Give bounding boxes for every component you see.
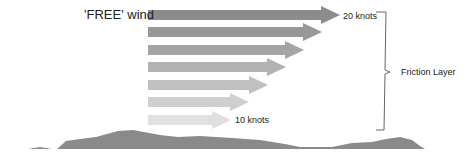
- friction-layer-bracket: [376, 12, 390, 130]
- friction-layer-label: Friction Layer: [401, 67, 456, 77]
- bottom-speed-label: 10 knots: [235, 115, 269, 125]
- ground-terrain: [28, 130, 425, 149]
- free-wind-label: 'FREE' wind: [84, 7, 154, 22]
- top-speed-label: 20 knots: [343, 11, 377, 21]
- friction-layer-diagram: 'FREE' wind 20 knots 10 knots Friction L…: [0, 0, 473, 164]
- terrain-and-bracket: [0, 0, 473, 164]
